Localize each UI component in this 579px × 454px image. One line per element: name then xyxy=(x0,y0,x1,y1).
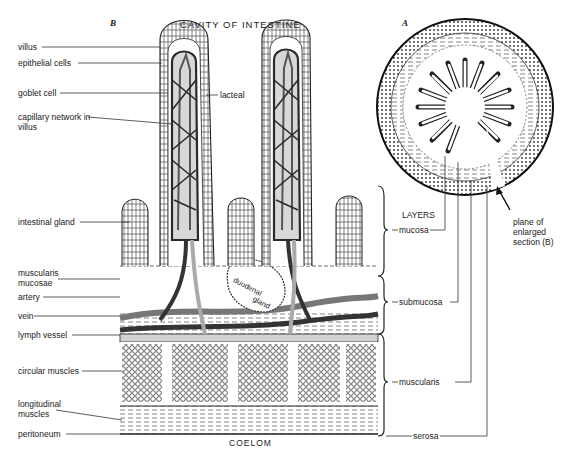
villus-right xyxy=(262,20,312,266)
label-lacteal: lacteal xyxy=(220,90,245,100)
label-circular-muscles: circular muscles xyxy=(18,366,79,376)
intestine-diagram-art xyxy=(0,0,579,454)
label-lymph-vessel: lymph vessel xyxy=(18,330,67,340)
layers-heading: LAYERS xyxy=(402,210,435,220)
villus-left xyxy=(160,21,214,267)
label-vein: vein xyxy=(18,311,34,321)
layer-serosa: serosa xyxy=(412,431,440,441)
label-muscularis-mucosae: muscularis mucosae xyxy=(18,268,68,288)
label-goblet-cell: goblet cell xyxy=(18,88,56,98)
leader-lines-right xyxy=(386,156,487,436)
label-capillary-network: capillary network in villus xyxy=(18,112,94,132)
intestinal-glands xyxy=(122,196,362,266)
label-epithelial-cells: epithelial cells xyxy=(18,58,71,68)
label-intestinal-gland: intestinal gland xyxy=(18,217,75,227)
layer-mucosa: mucosa xyxy=(398,225,430,235)
circular-muscle-blocks xyxy=(122,344,376,402)
panel-a-label: A xyxy=(402,18,408,28)
panel-b-label: B xyxy=(110,18,116,28)
layer-muscularis: muscularis xyxy=(398,377,441,387)
layer-submucosa: submucosa xyxy=(398,297,443,307)
cross-section-a xyxy=(377,19,553,195)
label-longitudinal-muscles: longitudinal muscles xyxy=(18,399,74,419)
label-artery: artery xyxy=(18,292,40,302)
cavity-caption: CAVITY OF INTESTINE xyxy=(180,19,301,30)
label-peritoneum: peritoneum xyxy=(18,429,61,439)
plane-note: plane of enlarged section (B) xyxy=(513,217,573,247)
coelom-caption: COELOM xyxy=(229,438,272,448)
label-villus: villus xyxy=(18,42,37,52)
